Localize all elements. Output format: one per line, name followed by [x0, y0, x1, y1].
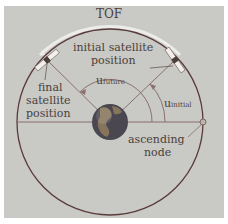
ascending-node-label-line2: node [144, 147, 171, 158]
final-satellite-pointer [45, 64, 47, 80]
u-initial-label: uinitial [164, 98, 192, 109]
earth-icon [92, 104, 128, 140]
ascending-node-marker [200, 119, 206, 125]
initial-position-label-line2: position [91, 55, 135, 66]
ascending-node-pointer [188, 125, 201, 137]
u-initial-arrow-icon [150, 84, 156, 90]
u-future-sub: future [103, 78, 125, 86]
final-position-label-line1: final [38, 82, 63, 93]
u-future-label: ufuture [96, 75, 125, 86]
u-future-arrow-icon [80, 89, 86, 95]
u-initial-arc [150, 84, 165, 122]
tof-label: TOF [96, 8, 122, 20]
ascending-node-label-line1: ascending [128, 134, 185, 145]
initial-position-label-line1: initial satellite [73, 42, 153, 53]
u-initial-sub: initial [171, 101, 191, 109]
final-position-label-line2: satellite [26, 95, 71, 106]
final-satellite-icon [34, 49, 59, 72]
initial-satellite-pointer [150, 66, 173, 68]
final-position-label-line3: position [26, 108, 70, 119]
